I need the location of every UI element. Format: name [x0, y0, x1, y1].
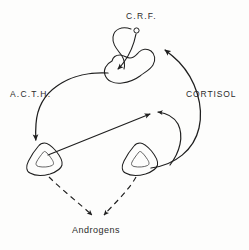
hpa-axis-illustration: [0, 0, 249, 250]
diagram-canvas: C.R.F. A.C.T.H. CORTISOL Androgens: [0, 0, 249, 250]
androgens-pathway-left: [49, 177, 92, 215]
cortisol-feedback-pathway: [151, 50, 200, 168]
androgens-pathway-right: [104, 177, 136, 215]
cortisol-inner-pathway: [158, 112, 181, 165]
pituitary-gland: [104, 49, 154, 83]
adrenal-to-circulation-arrow: [48, 114, 150, 155]
crf-neuron: [113, 28, 139, 69]
label-acth: A.C.T.H.: [10, 90, 51, 99]
adrenal-gland-right: [122, 143, 157, 175]
acth-pathway: [36, 73, 108, 140]
label-androgens: Androgens: [72, 226, 120, 235]
label-cortisol: CORTISOL: [186, 90, 237, 99]
adrenal-gland-left: [27, 143, 62, 175]
label-crf: C.R.F.: [126, 12, 157, 21]
